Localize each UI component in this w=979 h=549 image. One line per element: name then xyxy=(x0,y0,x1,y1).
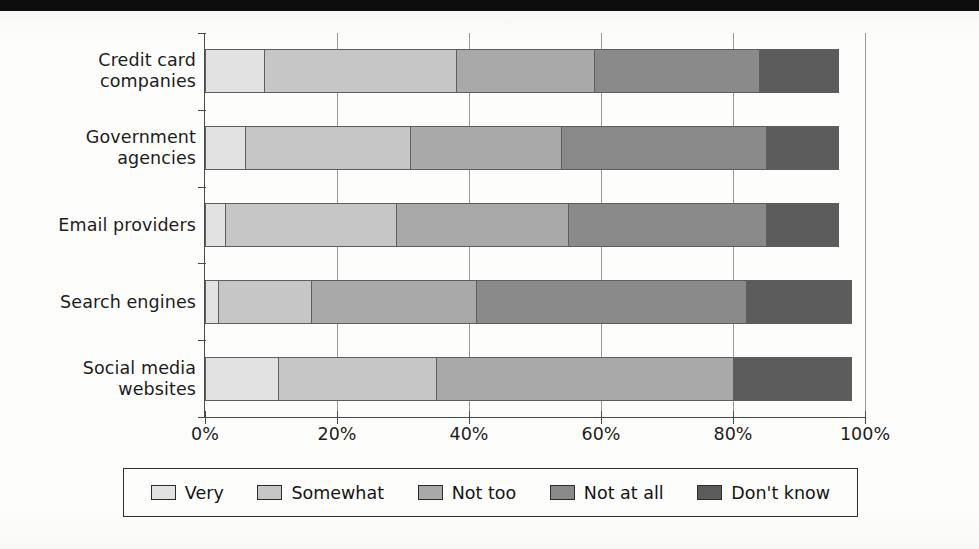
bar-row xyxy=(205,126,839,170)
x-tick-80pct xyxy=(733,411,734,424)
bar-segment xyxy=(205,280,218,324)
legend-label: Not too xyxy=(452,483,517,503)
bar-segment xyxy=(733,357,852,401)
scan-border-left xyxy=(0,0,3,11)
bar-segment xyxy=(218,280,310,324)
x-tick-label-80pct: 80% xyxy=(714,424,753,444)
category-label: Government agencies xyxy=(86,127,196,168)
x-axis-tick-labels: 0%20%40%60%80%100% xyxy=(205,424,885,450)
legend-label: Somewhat xyxy=(291,483,384,503)
bar-segment xyxy=(311,280,476,324)
bar-segment xyxy=(759,49,838,93)
bar-segment xyxy=(205,357,278,401)
bar-segment xyxy=(278,357,436,401)
y-tick xyxy=(198,340,206,341)
legend-label: Very xyxy=(185,483,224,503)
category-label: Social media websites xyxy=(83,358,196,399)
x-axis-line xyxy=(205,417,866,418)
x-tick-60pct xyxy=(601,411,602,424)
x-tick-20pct xyxy=(337,411,338,424)
legend-label: Don't know xyxy=(731,483,830,503)
bar-segment xyxy=(766,126,839,170)
bar-segment xyxy=(561,126,766,170)
x-tick-100pct xyxy=(865,411,866,424)
bar-row xyxy=(205,280,852,324)
x-tick-label-100pct: 100% xyxy=(840,424,890,444)
bar-segment xyxy=(396,203,568,247)
y-tick xyxy=(198,263,206,264)
y-tick xyxy=(198,417,206,418)
category-label: Email providers xyxy=(58,215,196,236)
plot-area xyxy=(205,33,865,417)
y-tick xyxy=(198,110,206,111)
category-label: Search engines xyxy=(60,292,196,313)
legend-entry[interactable]: Very xyxy=(151,483,224,503)
bar-row xyxy=(205,357,852,401)
stacked-bar-chart-figure: Credit card companiesGovernment agencies… xyxy=(0,0,979,549)
x-tick-label-0pct: 0% xyxy=(191,424,219,444)
legend-label: Not at all xyxy=(584,483,664,503)
legend-entry[interactable]: Not too xyxy=(418,483,517,503)
legend-swatch-icon xyxy=(697,485,722,500)
legend-swatch-icon xyxy=(151,485,176,500)
chart-legend: VerySomewhatNot tooNot at allDon't know xyxy=(123,468,858,517)
bar-row xyxy=(205,203,839,247)
x-tick-label-40pct: 40% xyxy=(450,424,489,444)
bar-segment xyxy=(476,280,747,324)
bar-segment xyxy=(205,203,225,247)
bar-segment xyxy=(594,49,759,93)
bar-segment xyxy=(205,126,245,170)
bar-segment xyxy=(568,203,766,247)
gridline-100pct xyxy=(865,33,866,417)
bar-segment xyxy=(410,126,562,170)
legend-swatch-icon xyxy=(550,485,575,500)
bar-segment xyxy=(456,49,595,93)
bar-row xyxy=(205,49,839,93)
x-tick-label-60pct: 60% xyxy=(582,424,621,444)
bar-segment xyxy=(264,49,455,93)
category-label: Credit card companies xyxy=(98,50,196,91)
legend-entry[interactable]: Somewhat xyxy=(257,483,384,503)
x-tick-label-20pct: 20% xyxy=(318,424,357,444)
bar-segment xyxy=(746,280,852,324)
legend-swatch-icon xyxy=(418,485,443,500)
bar-segment xyxy=(225,203,397,247)
bar-segment xyxy=(245,126,410,170)
bar-segment xyxy=(205,49,264,93)
legend-entry[interactable]: Don't know xyxy=(697,483,830,503)
x-tick-40pct xyxy=(469,411,470,424)
legend-entry[interactable]: Not at all xyxy=(550,483,664,503)
y-tick xyxy=(198,33,206,34)
scan-border-top xyxy=(0,0,979,11)
legend-swatch-icon xyxy=(257,485,282,500)
category-axis-labels: Credit card companiesGovernment agencies… xyxy=(20,33,196,417)
y-tick xyxy=(198,187,206,188)
bar-segment xyxy=(766,203,839,247)
bar-segment xyxy=(436,357,733,401)
